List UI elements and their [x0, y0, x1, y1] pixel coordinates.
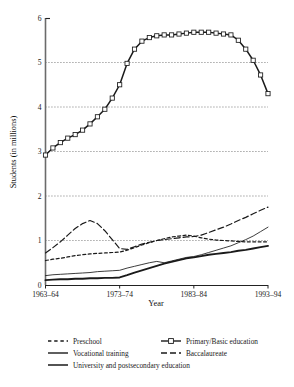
series-marker-0-27: [244, 47, 248, 51]
series-marker-0-12: [132, 47, 136, 51]
chart-figure: 0123456 1963–641973–741983–841993–94 Yea…: [0, 0, 294, 387]
series-marker-0-13: [140, 39, 144, 43]
series-marker-0-24: [221, 32, 225, 36]
series-marker-0-20: [192, 30, 196, 34]
chart-legend: PreschoolPrimary/Basic educationVocation…: [48, 337, 258, 370]
y-tick-label-2: 2: [38, 192, 42, 201]
y-tick-label-5: 5: [38, 58, 42, 67]
x-axis-title: Year: [148, 299, 164, 308]
legend-label-1: Primary/Basic education: [186, 337, 258, 346]
line-chart: 0123456 1963–641973–741983–841993–94 Yea…: [0, 0, 294, 387]
gridlines: [46, 63, 269, 241]
series-line-0: [46, 32, 269, 155]
legend-item-3: Baccalaureate: [161, 349, 227, 358]
series-line-1: [46, 207, 269, 253]
legend-label-3: Baccalaureate: [186, 349, 227, 358]
series-marker-0-8: [103, 107, 107, 111]
series-marker-0-15: [155, 34, 159, 38]
legend-square-marker-1: [169, 339, 174, 344]
series-marker-0-9: [110, 96, 114, 100]
series-marker-0-5: [80, 128, 84, 132]
legend-item-1: Primary/Basic education: [161, 337, 258, 346]
x-tick-label-2: 1983–84: [181, 290, 208, 299]
legend-item-0: Preschool: [48, 337, 102, 346]
y-tick-label-4: 4: [38, 103, 42, 112]
series-marker-0-29: [258, 73, 262, 77]
y-tick-label-1: 1: [38, 236, 42, 245]
series-marker-0-21: [199, 30, 203, 34]
series-marker-0-10: [118, 83, 122, 87]
series-marker-0-7: [95, 115, 99, 119]
series-marker-0-19: [184, 31, 188, 35]
y-axis-ticks: 0123456: [38, 14, 42, 290]
legend-item-4: University and postsecondary education: [48, 361, 190, 370]
x-tick-label-3: 1993–94: [255, 290, 282, 299]
series-marker-0-0: [43, 153, 47, 157]
legend-label-2: Vocational training: [73, 349, 129, 358]
series-marker-0-26: [236, 38, 240, 42]
series-marker-0-4: [73, 132, 77, 136]
x-tick-label-1: 1973–74: [106, 290, 133, 299]
series-line-4: [46, 246, 269, 280]
series-marker-0-17: [169, 33, 173, 37]
series-marker-0-2: [58, 141, 62, 145]
y-axis-title: Students (in millions): [9, 115, 18, 188]
series-marker-0-16: [162, 33, 166, 37]
series-marker-0-23: [214, 31, 218, 35]
series-marker-0-6: [88, 122, 92, 126]
x-axis-ticks: 1963–641973–741983–841993–94: [32, 285, 281, 299]
series-marker-0-14: [147, 35, 151, 39]
series-marker-0-3: [66, 136, 70, 140]
series-marker-0-30: [266, 92, 270, 96]
series-line-2: [46, 235, 269, 260]
legend-item-2: Vocational training: [48, 349, 129, 358]
series-marker-0-25: [229, 33, 233, 37]
series-marker-0-1: [51, 146, 55, 150]
legend-label-4: University and postsecondary education: [73, 361, 190, 370]
series-marker-0-11: [125, 61, 129, 65]
y-tick-label-3: 3: [38, 147, 42, 156]
series-marker-0-18: [177, 32, 181, 36]
y-tick-label-0: 0: [38, 281, 42, 290]
x-tick-label-0: 1963–64: [32, 290, 59, 299]
series-marker-0-22: [207, 30, 211, 34]
y-tick-label-6: 6: [38, 14, 42, 23]
series-marker-0-28: [251, 58, 255, 62]
legend-label-0: Preschool: [73, 337, 102, 346]
data-series-layer: [43, 30, 270, 280]
